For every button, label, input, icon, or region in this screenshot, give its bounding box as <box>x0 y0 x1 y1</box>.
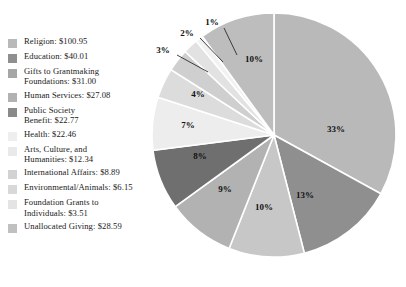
pie-svg: 33%13%10%9%8%7%4%10% 3%2%1% <box>150 10 402 265</box>
legend-swatch <box>8 224 17 233</box>
pie-percent-label: 4% <box>191 89 205 99</box>
legend-item-label: International Affairs: $8.89 <box>24 167 120 177</box>
legend-item-label: Religion: $100.95 <box>24 36 87 46</box>
legend-swatch <box>8 200 17 209</box>
legend-item-label: Unallocated Giving: $28.59 <box>24 221 122 231</box>
legend-swatch <box>8 108 17 117</box>
legend-swatch <box>8 93 17 102</box>
pie-percent-label: 7% <box>181 120 195 130</box>
pie-percent-label: 10% <box>245 54 263 64</box>
legend-item-label: Human Services: $27.08 <box>24 90 111 100</box>
legend-item-label: Public Society Benefit: $22.77 <box>24 105 79 126</box>
pie-percent-label: 9% <box>218 184 232 194</box>
pie-percent-label: 33% <box>327 124 345 134</box>
pie-slices <box>152 13 396 257</box>
legend-item-label: Health: $22.46 <box>24 129 76 139</box>
legend-item-label: Education: $40.01 <box>24 51 88 61</box>
pie-chart-figure: Religion: $100.95Education: $40.01Gifts … <box>0 0 406 287</box>
legend-swatch <box>8 39 17 48</box>
legend-swatch <box>8 147 17 156</box>
legend-swatch <box>8 54 17 63</box>
pie-outside-percent-label: 2% <box>180 28 194 38</box>
pie-outside-percent-label: 1% <box>205 17 219 27</box>
legend-swatch <box>8 69 17 78</box>
legend-swatch <box>8 132 17 141</box>
legend-item-label: Arts, Culture, and Humanities: $12.34 <box>24 144 93 165</box>
pie-chart-area: 33%13%10%9%8%7%4%10% 3%2%1% <box>150 10 402 265</box>
legend-item-label: Gifts to Grantmaking Foundations: $31.00 <box>24 66 99 87</box>
legend-item-label: Foundation Grants to Individuals: $3.51 <box>24 197 99 218</box>
pie-percent-label: 13% <box>296 190 314 200</box>
legend-swatch <box>8 185 17 194</box>
pie-percent-label: 10% <box>255 202 273 212</box>
legend-swatch <box>8 170 17 179</box>
pie-percent-label: 8% <box>193 151 207 161</box>
legend-item-label: Environmental/Animals: $6.15 <box>24 182 133 192</box>
pie-outside-percent-label: 3% <box>156 45 170 55</box>
